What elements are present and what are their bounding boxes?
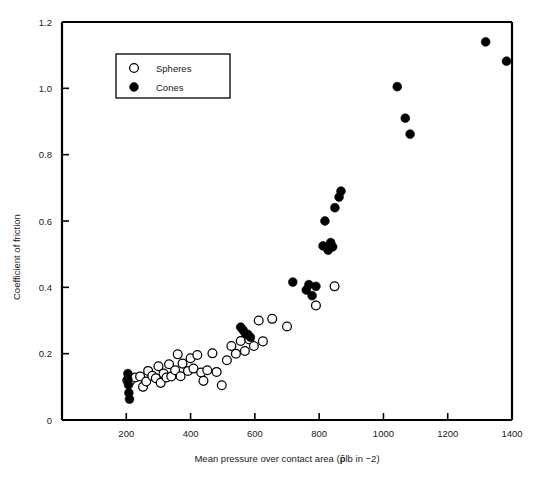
x-tick-label: 1400: [501, 428, 522, 439]
x-axis-title-text: Mean pressure over contact area (p̄lb in…: [194, 453, 379, 464]
x-tick-label: 1200: [437, 428, 458, 439]
data-point-cones: [312, 282, 321, 291]
data-point-cones: [246, 333, 255, 342]
legend-marker-cones-icon: [130, 83, 139, 92]
x-tick-label: 400: [183, 428, 199, 439]
y-tick-label: 0.8: [39, 149, 52, 160]
x-axis-title: Mean pressure over contact area (p̄lb in…: [194, 453, 379, 464]
data-point-spheres: [231, 349, 240, 358]
x-axis-ticks: 200400600800100012001400: [118, 413, 522, 439]
data-point-spheres: [173, 350, 182, 359]
data-point-cones: [502, 57, 511, 66]
plot-canvas: 200400600800100012001400 00.20.40.60.81.…: [0, 0, 538, 478]
x-tick-label: 1000: [373, 428, 394, 439]
x-tick-label: 600: [247, 428, 263, 439]
data-point-spheres: [208, 349, 217, 358]
data-point-cones: [406, 130, 415, 139]
data-point-spheres: [212, 368, 221, 377]
data-point-spheres: [236, 337, 245, 346]
y-tick-label: 0: [47, 415, 52, 426]
data-point-cones: [328, 242, 337, 251]
data-point-spheres: [249, 342, 258, 351]
data-point-spheres: [199, 376, 208, 385]
x-tick-label: 200: [118, 428, 134, 439]
data-point-cones: [308, 291, 317, 300]
x-axis-title-suffix: lb in −2): [345, 453, 379, 464]
data-point-cones: [401, 114, 410, 123]
y-tick-label: 0.4: [39, 282, 52, 293]
data-point-spheres: [217, 381, 226, 390]
data-point-spheres: [222, 356, 231, 365]
data-point-cones: [124, 380, 133, 389]
x-tick-label: 800: [311, 428, 327, 439]
data-point-spheres: [240, 347, 249, 356]
data-point-spheres: [330, 282, 339, 291]
y-tick-label: 1.2: [39, 17, 52, 28]
data-point-cones: [330, 203, 339, 212]
data-point-spheres: [254, 316, 263, 325]
y-axis-title: Coefficient of friction: [11, 214, 22, 300]
legend-label-spheres: Spheres: [156, 63, 192, 74]
data-point-spheres: [283, 322, 292, 331]
y-tick-label: 1.0: [39, 83, 52, 94]
data-point-spheres: [312, 301, 321, 310]
data-point-cones: [481, 38, 490, 47]
data-point-cones: [337, 187, 346, 196]
x-axis-title-prefix: Mean pressure over contact area (: [194, 453, 340, 464]
data-point-cones: [393, 82, 402, 91]
scatter-plot-figure: 200400600800100012001400 00.20.40.60.81.…: [0, 0, 538, 478]
series-spheres-points: [123, 282, 339, 391]
y-tick-label: 0.2: [39, 348, 52, 359]
y-tick-label: 0.6: [39, 216, 52, 227]
data-point-cones: [125, 395, 134, 404]
data-point-cones: [321, 217, 330, 226]
data-point-spheres: [268, 314, 277, 323]
data-point-spheres: [203, 366, 212, 375]
data-point-cones: [288, 278, 297, 287]
data-point-spheres: [193, 351, 202, 360]
data-point-spheres: [258, 337, 267, 346]
y-axis-ticks: 00.20.40.60.81.01.2: [39, 17, 69, 426]
legend: Spheres Cones: [116, 54, 230, 98]
legend-marker-spheres-icon: [130, 64, 139, 73]
legend-label-cones: Cones: [156, 82, 184, 93]
